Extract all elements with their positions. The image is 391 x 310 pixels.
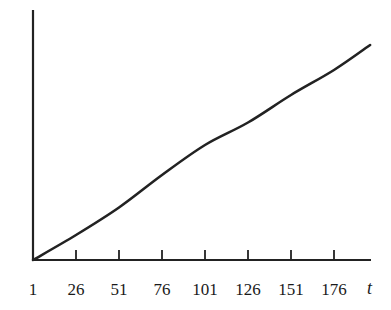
x-axis-label: t	[367, 278, 373, 298]
line-chart: 1265176101126151176 t	[0, 0, 391, 310]
x-axis-ticks	[76, 250, 334, 260]
x-tick-label: 26	[68, 280, 85, 299]
x-tick-label: 126	[235, 280, 261, 299]
x-tick-label: 151	[278, 280, 304, 299]
data-line	[33, 45, 370, 260]
x-tick-label: 176	[321, 280, 347, 299]
x-tick-label: 1	[29, 280, 38, 299]
x-tick-label: 76	[154, 280, 171, 299]
x-tick-label: 101	[192, 280, 218, 299]
axes	[32, 10, 371, 260]
x-tick-label: 51	[111, 280, 128, 299]
x-axis-tick-labels: 1265176101126151176	[29, 280, 347, 299]
